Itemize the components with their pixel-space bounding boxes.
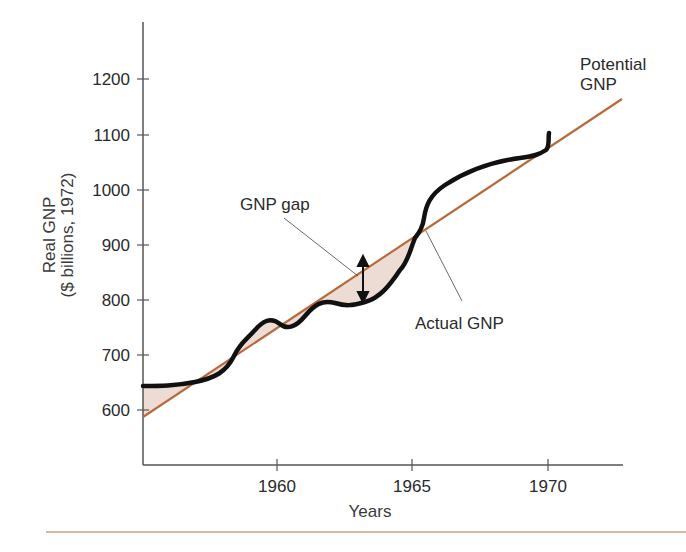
x-tick-label: 1965	[393, 477, 431, 496]
y-tick-label: 1000	[92, 181, 130, 200]
potential-gnp-label-2: GNP	[580, 75, 617, 94]
y-axis-title: Real GNP ($ billions, 1972)	[40, 173, 77, 298]
x-tick-label: 1960	[258, 477, 296, 496]
y-tick-label: 600	[102, 401, 130, 420]
actual-gnp-line	[143, 133, 549, 386]
y-tick-label: 1200	[92, 70, 130, 89]
y-axis-title-sub: ($ billions, 1972)	[58, 173, 77, 298]
gnp-gap-chart: 1200 1100 1000 900 800 700 600 1960 1965…	[0, 0, 686, 552]
y-tick-labels: 1200 1100 1000 900 800 700 600	[92, 70, 130, 420]
potential-gnp-line	[143, 99, 622, 417]
gap-leader-line	[284, 218, 358, 276]
y-tick-label: 900	[102, 236, 130, 255]
actual-gnp-label: Actual GNP	[415, 314, 504, 333]
y-tick-label: 800	[102, 291, 130, 310]
x-tick-label: 1970	[529, 477, 567, 496]
y-axis-title-main: Real GNP	[40, 197, 59, 274]
y-tick-label: 1100	[93, 126, 130, 145]
actual-leader-line	[426, 231, 462, 301]
y-tick-label: 700	[102, 346, 130, 365]
x-axis-title: Years	[349, 502, 392, 521]
gnp-gap-label: GNP gap	[240, 195, 310, 214]
potential-gnp-label-1: Potential	[580, 55, 646, 74]
x-tick-labels: 1960 1965 1970	[258, 477, 567, 496]
